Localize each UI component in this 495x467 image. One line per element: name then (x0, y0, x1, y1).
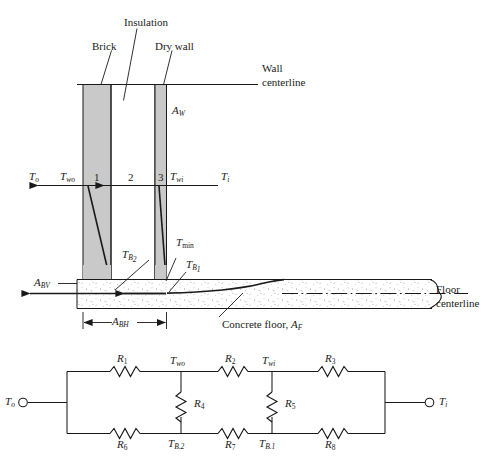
temp-inside-sub: i (227, 175, 229, 184)
resistor-symbols (110, 367, 356, 439)
circuit-node-two-wo: Two (170, 354, 185, 369)
resistor-R3-sub: 3 (332, 357, 336, 366)
temp-wall-inner-sub: wi (176, 175, 183, 184)
temp-wall-inner-label: Twi (170, 170, 183, 185)
circuit-node-tb2: TB.2 (168, 437, 184, 452)
resistor-label-R3: R3 (325, 352, 335, 367)
area-bh-label: ABH (112, 315, 129, 330)
temp-inside-label: Ti (221, 170, 229, 185)
resistor-R2-sub: 2 (232, 357, 236, 366)
resistor-R3 (318, 367, 356, 377)
resistor-R4-sym: R (194, 397, 201, 409)
circuit-terminal-right-label: Ti (439, 395, 447, 410)
resistor-label-R5: R5 (285, 397, 295, 412)
insulation-label: Insulation (124, 16, 168, 29)
circuit-terminal-right-sub: i (445, 400, 447, 409)
concrete-floor-text: Concrete floor, (222, 318, 291, 330)
circuit-node-tb1-sub: B.1 (265, 442, 275, 451)
resistor-R1-sym: R (117, 352, 124, 364)
circuit-node-two-wi: Twi (262, 354, 275, 369)
temp-min-sub: min (182, 241, 194, 250)
area-wall-label: AW (172, 104, 185, 119)
area-wall-sym: A (172, 104, 179, 116)
area-wall-sub: W (179, 109, 185, 118)
wall-centerline-label-line2: centerline (262, 76, 305, 90)
resistor-R6 (110, 429, 148, 439)
floor-centerline-label-line1: Floor (436, 283, 479, 297)
layer-number-1: 1 (94, 171, 100, 184)
resistor-label-R8: R8 (325, 438, 335, 453)
diagram-vector-layer (0, 0, 495, 467)
resistor-R8-sym: R (325, 438, 332, 450)
area-bv-sym: A (34, 276, 41, 288)
resistor-R2-sym: R (225, 352, 232, 364)
resistor-R7-sym: R (225, 438, 232, 450)
floor-centerline-label-line2: centerline (436, 297, 479, 311)
resistor-label-R1: R1 (117, 352, 127, 367)
resistor-R5-sub: 5 (292, 402, 296, 411)
figure-canvas: Brick Insulation Dry wall Wall centerlin… (0, 0, 495, 467)
area-bv-label: ABV (34, 276, 50, 291)
wall-centerline-label: Wall centerline (262, 62, 305, 90)
resistor-R3-sym: R (325, 352, 332, 364)
floor-centerline-label: Floor centerline (436, 283, 479, 311)
layer-number-3: 3 (158, 171, 164, 184)
circuit-wires (28, 372, 425, 434)
resistor-label-R4: R4 (194, 397, 204, 412)
temp-b2-label: TB2 (122, 248, 136, 265)
circuit-node-tb2-sub: B.2 (174, 442, 184, 451)
resistor-label-R7: R7 (225, 438, 235, 453)
area-bh-sub: BH (119, 320, 129, 329)
area-bv-sub: BV (41, 281, 50, 290)
foundation-gray-right (155, 265, 167, 280)
temp-b2-sub2: 2 (133, 255, 137, 264)
temp-min-label: Tmin (176, 236, 194, 251)
circuit-terminal-left-sub: o (11, 400, 15, 409)
temp-outside-label: To (29, 170, 39, 185)
resistor-R4-sub: 4 (201, 402, 205, 411)
layer-number-2: 2 (128, 171, 134, 184)
resistor-R8-sub: 8 (332, 443, 336, 452)
temp-b1-label: TB1 (186, 258, 200, 275)
temp-wall-outer-label: Two (60, 170, 75, 185)
resistor-R2 (218, 367, 256, 377)
circuit-node-two-wi-sub: wi (268, 359, 275, 368)
resistor-label-R6: R6 (117, 438, 127, 453)
temp-b1-sub2: 1 (197, 265, 201, 274)
circuit-node-tb1: TB.1 (259, 437, 275, 452)
terminal-circle-left (19, 398, 28, 407)
concrete-floor-sub: F (298, 323, 303, 332)
resistor-R1 (110, 367, 148, 377)
temp-wall-outer-sub: wo (66, 175, 75, 184)
resistor-R1-sub: 1 (124, 357, 128, 366)
brick-label: Brick (92, 40, 116, 53)
resistor-R6-sym: R (117, 438, 124, 450)
circuit-terminal-left-label: To (5, 395, 15, 410)
concrete-floor-sym: A (291, 318, 298, 330)
temp-outside-sub: o (35, 175, 39, 184)
terminal-circle-right (425, 398, 434, 407)
dry-wall-label: Dry wall (155, 40, 194, 53)
area-bh-sym: A (112, 315, 119, 327)
foundation-gray-left (83, 265, 111, 280)
resistor-label-R2: R2 (225, 352, 235, 367)
resistor-R8 (318, 429, 356, 439)
resistor-R6-sub: 6 (124, 443, 128, 452)
wall-centerline-label-line1: Wall (262, 62, 305, 76)
resistor-R5-sym: R (285, 397, 292, 409)
resistor-R7 (218, 429, 256, 439)
resistor-R7-sub: 7 (232, 443, 236, 452)
circuit-node-two-wo-sub: wo (176, 359, 185, 368)
concrete-floor-label: Concrete floor, AF (222, 318, 302, 333)
